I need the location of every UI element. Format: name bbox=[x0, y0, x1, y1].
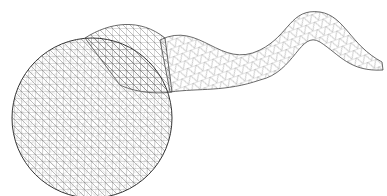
tail-mesh bbox=[160, 12, 383, 92]
wireframe-mesh-figure bbox=[0, 0, 387, 196]
